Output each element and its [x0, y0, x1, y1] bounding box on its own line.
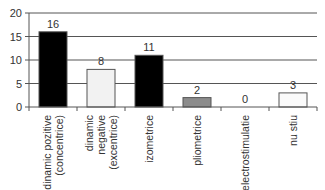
bar-value-label: 3 — [290, 79, 296, 91]
x-category-label: negative — [95, 115, 107, 155]
bar-value-label: 0 — [242, 93, 248, 105]
bar-value-label: 8 — [98, 55, 104, 67]
bars: 16811203 — [39, 18, 307, 107]
bar-chart: 05101520 16811203 dinamic pozitive(conce… — [0, 0, 325, 190]
x-category-label: (concentrice) — [53, 115, 65, 176]
y-axis-ticks: 05101520 — [10, 7, 29, 113]
y-tick-label: 15 — [10, 31, 22, 43]
x-category-label: pliometrice — [191, 115, 203, 166]
gridlines — [29, 13, 317, 84]
x-category-label: dinamic pozitive — [41, 115, 53, 190]
axes — [29, 13, 317, 111]
bar-value-label: 11 — [143, 41, 154, 53]
bar — [87, 69, 115, 107]
x-category-label: dinamic — [83, 115, 95, 151]
x-category-label: nu stiu — [287, 115, 299, 146]
bar-value-label: 2 — [194, 84, 200, 96]
bar-value-label: 16 — [47, 18, 59, 30]
bar — [39, 32, 67, 107]
bar — [135, 55, 163, 107]
y-tick-label: 20 — [10, 7, 22, 19]
x-category-label: electrostimulatie — [239, 115, 251, 190]
bar — [183, 98, 211, 107]
y-tick-label: 10 — [10, 54, 22, 66]
x-category-label: (excentrice) — [107, 115, 119, 170]
y-tick-label: 5 — [16, 78, 22, 90]
x-category-label: izometrice — [143, 115, 155, 163]
x-axis-labels: dinamic pozitive(concentrice)dinamicnega… — [41, 115, 299, 190]
y-tick-label: 0 — [16, 101, 22, 113]
bar — [279, 93, 307, 107]
